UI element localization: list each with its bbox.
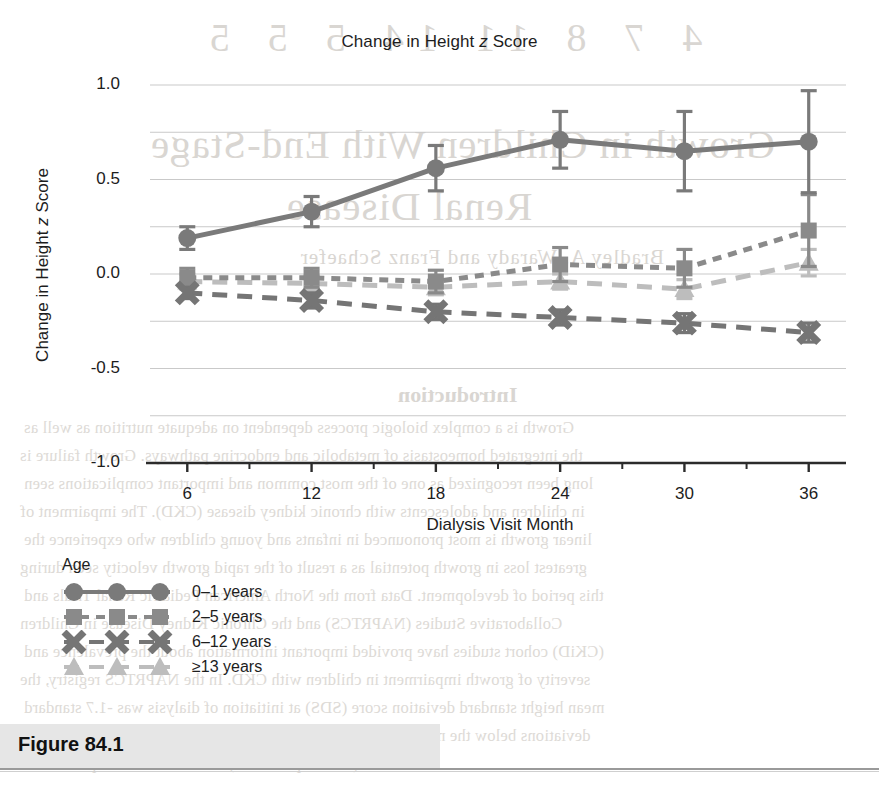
plot-area bbox=[0, 0, 879, 520]
data-point-circle bbox=[551, 131, 569, 149]
legend-swatch-circle-icon bbox=[60, 580, 180, 604]
series-line bbox=[187, 293, 808, 333]
chart-figure: Change in Height z Score Change in Heigh… bbox=[0, 0, 879, 720]
data-point-square bbox=[66, 609, 82, 625]
figure-label: Figure 84.1 bbox=[18, 733, 124, 756]
legend-label: ≥13 years bbox=[192, 658, 262, 676]
data-point-square bbox=[109, 609, 125, 625]
series-6-12-years bbox=[177, 283, 818, 343]
figure-rule bbox=[0, 768, 879, 770]
legend-item[interactable]: 2–5 years bbox=[60, 604, 271, 629]
data-point-square bbox=[152, 609, 168, 625]
chart-legend: Age 0–1 years2–5 years6–12 years≥13 year… bbox=[60, 556, 271, 679]
series-line bbox=[187, 140, 808, 238]
legend-label: 0–1 years bbox=[192, 583, 262, 601]
data-point-circle bbox=[151, 583, 169, 601]
data-point-square bbox=[304, 270, 320, 286]
legend-item[interactable]: 0–1 years bbox=[60, 579, 271, 604]
legend-swatch-square-icon bbox=[60, 605, 180, 629]
legend-swatch-x-icon bbox=[60, 630, 180, 654]
data-point-circle bbox=[427, 159, 445, 177]
legend-title: Age bbox=[60, 556, 271, 574]
data-point-square bbox=[801, 223, 817, 239]
data-point-circle bbox=[303, 203, 321, 221]
legend-swatch-triangle-icon bbox=[60, 655, 180, 679]
legend-label: 2–5 years bbox=[192, 608, 262, 626]
data-point-circle bbox=[65, 583, 83, 601]
legend-item[interactable]: 6–12 years bbox=[60, 629, 271, 654]
data-point-circle bbox=[108, 583, 126, 601]
legend-label: 6–12 years bbox=[192, 633, 271, 651]
legend-rows: 0–1 years2–5 years6–12 years≥13 years bbox=[60, 579, 271, 679]
data-point-circle bbox=[178, 229, 196, 247]
data-point-circle bbox=[800, 133, 818, 151]
data-point-square bbox=[428, 274, 444, 290]
series-line bbox=[187, 263, 808, 289]
series-0-1-years bbox=[178, 91, 817, 250]
figure-rule-secondary bbox=[0, 771, 879, 772]
series-2-5-years bbox=[179, 195, 816, 293]
data-point-circle bbox=[675, 142, 693, 160]
data-point-square bbox=[676, 260, 692, 276]
legend-item[interactable]: ≥13 years bbox=[60, 654, 271, 679]
data-point-square bbox=[552, 257, 568, 273]
